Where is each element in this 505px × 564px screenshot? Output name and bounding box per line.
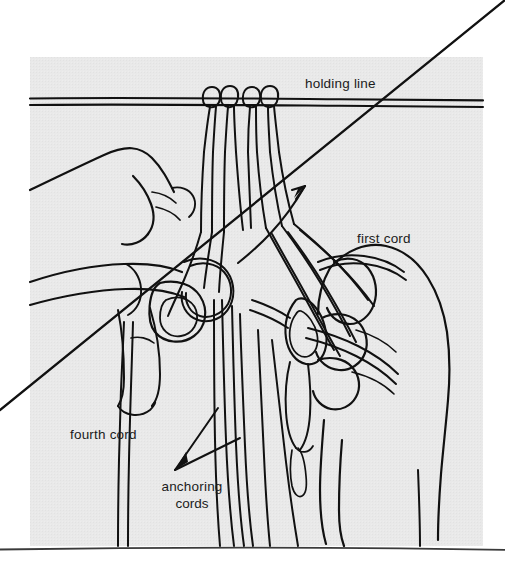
figure-root: holding line first cord fourth cord anch… <box>0 0 505 564</box>
label-anchoring-cords-line2: cords <box>175 496 208 511</box>
label-holding-line: holding line <box>305 76 376 91</box>
label-anchoring-cords-line1: anchoring <box>161 479 222 494</box>
label-fourth-cord: fourth cord <box>70 427 137 442</box>
label-first-cord: first cord <box>357 231 411 246</box>
macrame-illustration: holding line first cord fourth cord anch… <box>0 0 505 564</box>
